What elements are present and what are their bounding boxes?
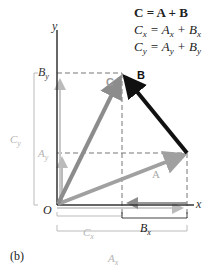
- bx-bracket: [122, 212, 187, 218]
- ax-bracket: [57, 225, 187, 231]
- cy-label: Cy: [10, 133, 21, 148]
- vector-b: [125, 77, 187, 153]
- vector-a-label: A: [152, 168, 160, 180]
- vector-b-label: B: [137, 69, 145, 81]
- panel-label: (b): [10, 249, 24, 263]
- equation-c-sum: C = A + B: [134, 5, 188, 20]
- x-axis-label: x: [195, 197, 202, 211]
- ax-label: Ax: [107, 252, 119, 267]
- cy-bracket: [34, 73, 38, 205]
- cx-bracket: [57, 212, 122, 216]
- origin-label: O: [43, 203, 52, 217]
- by-label: By: [38, 65, 49, 81]
- y-axis-label: y: [51, 19, 58, 33]
- equation-cx: Cx = Ax + Bx: [134, 22, 201, 39]
- cx-label: Cx: [83, 226, 94, 241]
- equations: C = A + B Cx = Ax + Bx Cy = Ay + By: [134, 5, 201, 56]
- bx-label: Bx: [140, 221, 151, 237]
- equation-cy: Cy = Ay + By: [134, 39, 201, 56]
- vector-c-label: C: [106, 76, 114, 88]
- ay-label: Ay: [37, 147, 49, 162]
- vector-addition-diagram: C = A + B Cx = Ax + Bx Cy = Ay + By y x …: [0, 0, 209, 270]
